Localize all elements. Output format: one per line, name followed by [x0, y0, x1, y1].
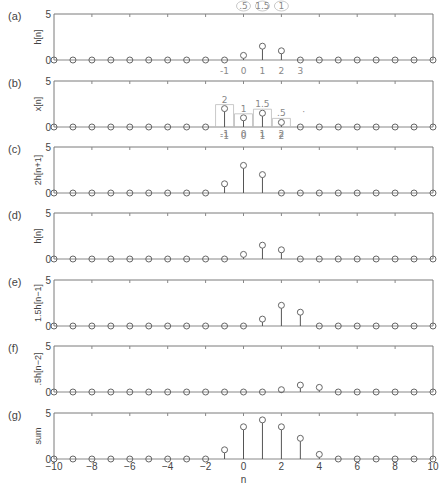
stem-marker	[259, 242, 265, 248]
xlabel: n	[241, 474, 247, 485]
axes-frame	[54, 280, 433, 326]
stem-marker	[316, 451, 322, 457]
stem-marker	[297, 382, 303, 388]
panel-label: (a)	[8, 10, 21, 22]
handwritten-dot: ·	[302, 107, 305, 117]
xtick-label: −6	[124, 461, 136, 472]
stem-marker	[297, 309, 303, 315]
handwritten-note: 2	[279, 131, 285, 141]
stem-marker	[222, 106, 228, 112]
handwritten-note: 1	[279, 1, 285, 11]
handwritten-note: 2	[222, 95, 228, 105]
stem-marker	[241, 424, 247, 430]
xtick-label: −4	[162, 461, 174, 472]
stem-marker	[278, 302, 284, 308]
stem-marker	[241, 162, 247, 168]
stem-marker	[259, 172, 265, 178]
ytick-label: 5	[45, 9, 51, 20]
stem-marker	[259, 43, 265, 49]
handwritten-note: 3	[297, 66, 303, 76]
axes-frame	[54, 346, 433, 392]
ytick-label: 5	[45, 341, 51, 352]
stem-marker	[278, 424, 284, 430]
stem-marker	[222, 181, 228, 187]
handwritten-note: 0	[241, 66, 247, 76]
xtick-label: 6	[354, 461, 360, 472]
panel-label: (e)	[8, 276, 21, 288]
stem-marker	[278, 247, 284, 253]
stem-marker	[241, 52, 247, 58]
handwritten-note: 1	[260, 131, 266, 141]
ylabel: h[n]	[33, 29, 43, 44]
handwritten-note: -1	[220, 66, 229, 76]
handwritten-note: 1.5	[255, 1, 269, 11]
handwritten-note: 1.5	[255, 99, 269, 109]
stem-marker	[259, 110, 265, 116]
stem-marker	[278, 48, 284, 54]
panel-label: (f)	[8, 342, 18, 354]
panel-label: (b)	[8, 77, 21, 89]
xtick-label: 0	[241, 461, 247, 472]
stem-marker	[241, 115, 247, 121]
handwritten-note: 0	[241, 131, 247, 141]
xtick-label: 8	[392, 461, 398, 472]
ylabel: 2h[n+1]	[33, 155, 43, 185]
ylabel: .5h[n−2]	[33, 353, 43, 386]
xtick-label: −2	[200, 461, 212, 472]
ytick-label: 5	[45, 408, 51, 419]
stem-marker	[278, 119, 284, 125]
stem-marker	[259, 316, 265, 322]
xtick-label: 2	[279, 461, 285, 472]
ytick-label: 5	[45, 142, 51, 153]
xtick-label: 10	[427, 461, 439, 472]
xtick-label: −10	[46, 461, 63, 472]
panel-label: (c)	[8, 143, 21, 155]
stem-marker	[241, 251, 247, 257]
handwritten-note: 1	[260, 66, 266, 76]
stem-marker	[259, 417, 265, 423]
xtick-label: −8	[86, 461, 98, 472]
ylabel: h[n]	[33, 228, 43, 243]
ylabel: 1.5h[n−1]	[33, 284, 43, 322]
stem-plot-figure: (a)50h[n](b)50x[n](c)502h[n+1](d)50h[n](…	[0, 0, 444, 489]
ylabel: x[n]	[33, 97, 43, 112]
ylabel: sum	[33, 427, 43, 444]
axes-frame	[54, 213, 433, 259]
ytick-label: 5	[45, 208, 51, 219]
stem-marker	[297, 435, 303, 441]
ytick-label: 5	[45, 275, 51, 286]
handwritten-note: .5	[277, 108, 286, 118]
handwritten-note: .5	[239, 1, 248, 11]
handwritten-note: 2	[279, 66, 285, 76]
axes-frame	[54, 14, 433, 60]
panel-label: (d)	[8, 209, 21, 221]
panel-label: (g)	[8, 409, 21, 421]
stem-marker	[222, 447, 228, 453]
handwritten-note: 1	[241, 104, 247, 114]
stem-marker	[316, 384, 322, 390]
handwritten-note: -1	[220, 131, 229, 141]
ytick-label: 5	[45, 76, 51, 87]
xtick-label: 4	[317, 461, 323, 472]
